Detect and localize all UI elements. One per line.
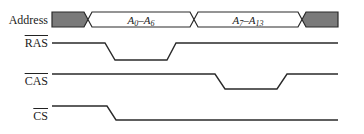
cs-waveform (52, 106, 338, 120)
timing-diagram: Address RAS CAS CS A0–A6 A7–A13 (0, 0, 364, 134)
address-invalid-right (302, 12, 338, 27)
row-address-label: A0–A6 (127, 14, 155, 28)
address-invalid-left (52, 12, 88, 27)
waveforms: A0–A6 A7–A13 (0, 0, 364, 134)
cas-waveform (52, 74, 338, 89)
ras-waveform (52, 43, 338, 60)
